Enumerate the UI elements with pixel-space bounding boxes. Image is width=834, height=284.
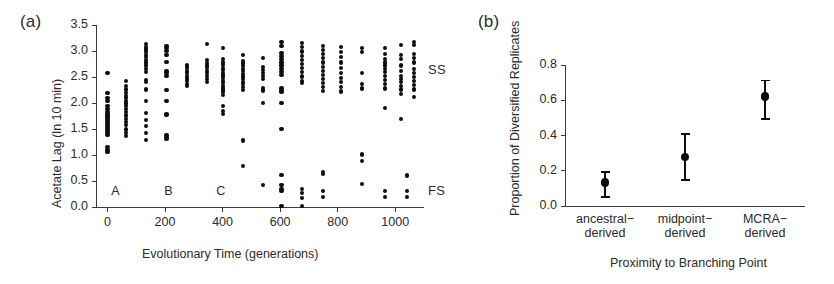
panel-a-x-tick-label-4: 800 <box>313 215 363 229</box>
panel-b-y-tick-0 <box>561 206 565 207</box>
panel-a-y-tick-5 <box>92 77 96 78</box>
panel-a-y-tick-label-6: 3.0 <box>40 43 88 57</box>
panel-a-y-tick-label-2: 1.0 <box>40 147 88 161</box>
data-point-ss-199 <box>399 63 403 67</box>
data-point-fs-22 <box>405 174 409 178</box>
data-point-ss-206 <box>399 92 403 96</box>
error-bar-cap-top-2 <box>761 80 770 82</box>
panel-a-x-tick-1 <box>165 208 166 212</box>
data-point-ss-143 <box>279 89 283 93</box>
data-point-ss-198 <box>399 57 403 61</box>
panel-b-x-axis-title: Proximity to Branching Point <box>610 256 767 270</box>
panel-b-y-tick-label-0: 0.0 <box>511 198 557 212</box>
data-point-ss-145 <box>279 127 283 131</box>
figure-root: (a) Acetate Lag (ln 10 min) Evolutionary… <box>0 0 834 284</box>
data-point-ss-49 <box>144 70 148 74</box>
panel-a-y-tick-3 <box>92 129 96 130</box>
panel-a-x-tick-3 <box>280 208 281 212</box>
data-point-ss-205 <box>399 87 403 91</box>
data-point-ss-148 <box>300 49 304 53</box>
panel-a-y-tick-label-4: 2.0 <box>40 95 88 109</box>
panel-a-y-tick-2 <box>92 155 96 156</box>
data-point-fs-19 <box>383 189 387 193</box>
panel-a-x-tick-label-3: 600 <box>255 215 305 229</box>
data-point-ss-107 <box>221 104 225 108</box>
data-point-fs-14 <box>321 189 325 193</box>
panel-b-y-axis-title: Proportion of Diversified Replicates <box>508 21 522 216</box>
data-point-fs-7 <box>279 204 283 208</box>
data-point-ss-141 <box>279 73 283 77</box>
data-point-ss-168 <box>321 89 325 93</box>
data-point-fs-23 <box>405 189 409 193</box>
panel-a-y-tick-label-1: 0.5 <box>40 173 88 187</box>
data-point-ss-67 <box>164 88 168 92</box>
data-point-fs-9 <box>300 191 304 195</box>
panel-a-y-tick-6 <box>92 51 96 52</box>
data-point-ss-154 <box>300 74 304 78</box>
category-label-2: MCRA− derived <box>715 213 815 240</box>
error-bar-cap-bottom-1 <box>681 179 690 181</box>
panel-a-x-axis-line <box>96 207 424 208</box>
data-point-ss-54 <box>144 111 148 115</box>
data-point-ss-0 <box>105 71 109 75</box>
data-point-ss-68 <box>164 99 168 103</box>
data-point-ss-21 <box>124 79 128 83</box>
panel-b-y-tick-label-1: 0.2 <box>511 163 557 177</box>
panel-b-y-tick-3 <box>561 100 565 101</box>
data-point-ss-122 <box>241 88 245 92</box>
data-point-ss-20 <box>105 150 109 154</box>
data-point-ss-130 <box>261 88 265 92</box>
data-point-fs-13 <box>321 172 325 176</box>
data-point-fs-2 <box>261 183 265 187</box>
data-point-ss-212 <box>412 60 416 64</box>
mean-marker-2 <box>761 92 770 101</box>
panel-a-y-tick-1 <box>92 181 96 182</box>
data-point-ss-156 <box>300 81 304 85</box>
data-point-ss-56 <box>144 124 148 128</box>
data-point-ss-51 <box>144 80 148 84</box>
data-point-ss-218 <box>412 87 416 91</box>
panel-b-y-tick-4 <box>561 65 565 66</box>
data-point-ss-106 <box>221 93 225 97</box>
panel-a-x-axis-title: Evolutionary Time (generations) <box>142 247 318 261</box>
panel-a-x-tick-label-5: 1000 <box>370 215 420 229</box>
panel-b-y-tick-2 <box>561 135 565 136</box>
data-point-ss-58 <box>144 138 148 142</box>
data-point-ss-144 <box>279 101 283 105</box>
data-point-ss-171 <box>339 55 343 59</box>
panel-a-y-tick-label-3: 1.5 <box>40 121 88 135</box>
panel-a-y-tick-7 <box>92 25 96 26</box>
panel-a-x-tick-4 <box>337 208 338 212</box>
error-bar-cap-bottom-0 <box>601 196 610 198</box>
data-point-ss-1 <box>105 91 109 95</box>
data-point-ss-219 <box>412 95 416 99</box>
phase-marker-a: A <box>111 184 119 198</box>
phase-marker-c: C <box>216 184 225 198</box>
data-point-ss-3 <box>105 99 109 103</box>
data-point-fs-24 <box>405 195 409 199</box>
data-point-fs-17 <box>360 159 364 163</box>
data-point-fs-16 <box>360 152 364 156</box>
panel-a-y-tick-0 <box>92 207 96 208</box>
data-point-ss-62 <box>164 53 168 57</box>
data-point-ss-133 <box>279 44 283 48</box>
data-point-ss-176 <box>339 80 343 84</box>
data-point-ss-38 <box>124 134 128 138</box>
data-point-fs-20 <box>383 195 387 199</box>
panel-a-x-tick-0 <box>107 208 108 212</box>
panel-b-y-axis-line <box>565 65 566 207</box>
data-point-ss-123 <box>261 56 265 60</box>
panel-a-y-axis-line <box>96 25 97 208</box>
data-point-ss-72 <box>164 137 168 141</box>
data-point-ss-82 <box>205 42 209 46</box>
data-point-fs-0 <box>241 138 245 142</box>
data-point-ss-194 <box>383 86 387 90</box>
panel-a-x-tick-label-1: 200 <box>140 215 190 229</box>
data-point-ss-109 <box>221 112 225 116</box>
data-point-ss-161 <box>321 60 325 64</box>
error-bar-cap-top-0 <box>601 171 610 173</box>
series-label-fs: FS <box>428 183 445 198</box>
data-point-ss-92 <box>221 46 225 50</box>
panel-b-y-tick-label-4: 0.8 <box>511 57 557 71</box>
panel-a-y-tick-label-0: 0.0 <box>40 199 88 213</box>
